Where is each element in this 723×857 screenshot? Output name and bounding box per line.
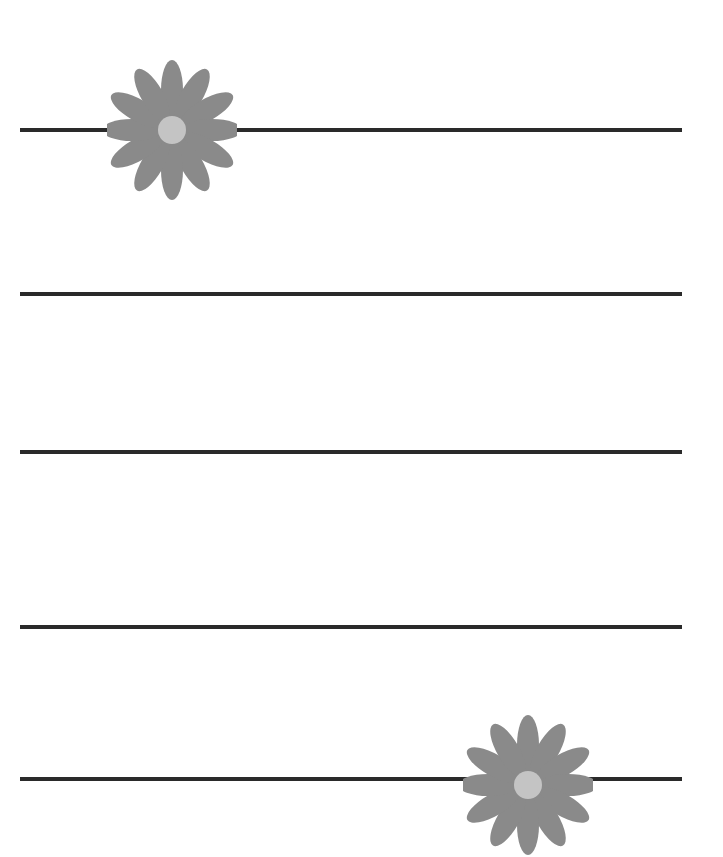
flower-icon (463, 715, 593, 855)
flower-icon (107, 60, 237, 200)
writing-line-2 (20, 292, 682, 296)
writing-line-4 (20, 625, 682, 629)
writing-line-3 (20, 450, 682, 454)
